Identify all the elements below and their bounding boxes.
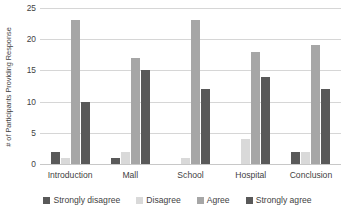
bar	[301, 152, 310, 164]
legend-swatch-icon	[136, 197, 143, 204]
bar	[61, 158, 70, 164]
bar	[261, 77, 270, 164]
bar	[181, 158, 190, 164]
x-axis-tick-label: Hospital	[221, 168, 281, 182]
bar	[251, 52, 260, 164]
legend-item[interactable]: Strongly agree	[246, 195, 312, 205]
bar	[71, 20, 80, 164]
y-axis-tick-label: 15	[14, 66, 36, 74]
bar-group	[281, 8, 341, 164]
y-axis-tick-label: 5	[14, 129, 36, 137]
bar	[121, 152, 130, 164]
legend-item[interactable]: Disagree	[136, 195, 180, 205]
legend-swatch-icon	[43, 197, 50, 204]
legend-label: Strongly disagree	[53, 195, 120, 205]
bar	[111, 158, 120, 164]
y-axis-tick-labels: 0510152025	[14, 8, 36, 164]
x-axis-tick-label: Introduction	[40, 168, 100, 182]
chart-legend: Strongly disagreeDisagreeAgreeStrongly a…	[18, 192, 337, 208]
bar	[131, 58, 140, 164]
bar	[81, 102, 90, 164]
y-axis-tick-label: 20	[14, 35, 36, 43]
x-axis-tick-label: School	[160, 168, 220, 182]
bar-group	[221, 8, 281, 164]
bar-chart-figure: # of Participants Providing Response 051…	[0, 0, 345, 217]
y-axis-tick-label: 0	[14, 160, 36, 168]
plot-area	[40, 8, 341, 165]
bar	[191, 20, 200, 164]
bars-layer	[40, 8, 341, 164]
bar	[311, 45, 320, 164]
legend-swatch-icon	[246, 197, 253, 204]
bar-group	[100, 8, 160, 164]
bar-group	[40, 8, 100, 164]
legend-swatch-icon	[197, 197, 204, 204]
bar	[141, 70, 150, 164]
bar-group	[160, 8, 220, 164]
legend-label: Strongly agree	[256, 195, 312, 205]
bar	[201, 89, 210, 164]
legend-label: Agree	[207, 195, 230, 205]
x-axis-category-labels: IntroductionMallSchoolHospitalConclusion	[40, 168, 341, 182]
legend-item[interactable]: Strongly disagree	[43, 195, 120, 205]
bar	[321, 89, 330, 164]
bar	[241, 139, 250, 164]
bar	[51, 152, 60, 164]
x-axis-tick-label: Mall	[100, 168, 160, 182]
legend-label: Disagree	[146, 195, 180, 205]
bar	[291, 152, 300, 164]
y-axis-tick-label: 10	[14, 98, 36, 106]
x-axis-tick-label: Conclusion	[281, 168, 341, 182]
y-axis-tick-label: 25	[14, 4, 36, 12]
legend-item[interactable]: Agree	[197, 195, 230, 205]
